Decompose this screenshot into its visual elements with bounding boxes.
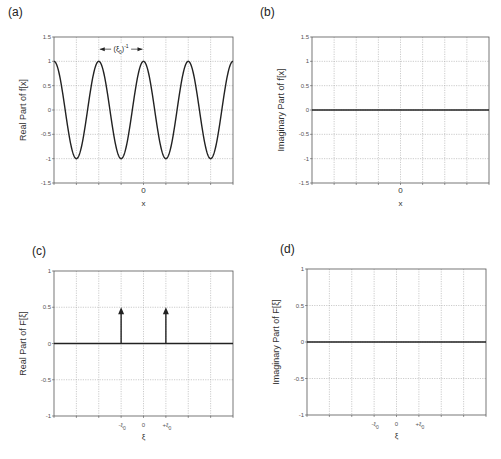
- period-annotation: (ξ0)-1: [114, 43, 129, 55]
- y-tick-label: -1: [304, 156, 310, 162]
- x-tick-label: 0: [142, 422, 146, 428]
- y-tick-label: -0.5: [41, 377, 52, 383]
- y-tick-label: -0.5: [41, 131, 52, 137]
- y-tick-label: -0.5: [299, 131, 310, 137]
- y-tick-label: 0.5: [296, 303, 305, 309]
- x-tick-label: 0: [395, 421, 399, 427]
- panel-label: (a): [8, 5, 23, 19]
- y-tick-label: 1.5: [301, 34, 310, 40]
- y-tick-label: 0: [301, 339, 305, 345]
- panel-b: (b)1.510.50-0.5-1-1.50xImaginary Part of…: [260, 5, 489, 208]
- panel-label: (b): [260, 5, 275, 19]
- y-tick-label: 1.5: [43, 34, 52, 40]
- y-tick-label: -1: [46, 156, 52, 162]
- y-tick-label: -1.5: [41, 180, 52, 186]
- panel-d: (d)10.50-0.5-1-ξ00+ξ0ξImaginary Part of …: [271, 242, 486, 440]
- figure: (a)1.510.50-0.5-1-1.50xReal Part of f[x]…: [0, 0, 501, 459]
- y-tick-label: -1: [299, 412, 305, 418]
- y-axis-label: Imaginary Part of f[x]: [276, 68, 286, 151]
- panel-c: (c)10.50-0.5-1-ξ00+ξ0ξReal Part of F[ξ]: [18, 244, 233, 441]
- y-tick-label: -1: [46, 413, 52, 419]
- y-axis-label: Real Part of F[ξ]: [18, 311, 28, 376]
- y-tick-label: 0.5: [43, 83, 52, 89]
- panel-label: (c): [32, 244, 46, 258]
- y-axis-label: Imaginary Part of F[ξ]: [271, 299, 281, 385]
- panel-a: (a)1.510.50-0.5-1-1.50xReal Part of f[x]…: [8, 5, 233, 208]
- x-axis-label: ξ: [395, 431, 399, 440]
- y-tick-label: 0.5: [301, 83, 310, 89]
- x-tick-label: 0: [398, 186, 403, 195]
- y-tick-label: 0.5: [43, 304, 52, 310]
- x-tick-label: -ξ0: [371, 421, 379, 430]
- y-tick-label: 1: [306, 58, 310, 64]
- y-tick-label: 1: [48, 268, 52, 274]
- y-tick-label: 0: [48, 341, 52, 347]
- impulse-arrowhead: [118, 307, 124, 314]
- x-axis-label: x: [399, 199, 403, 208]
- x-tick-label: -ξ0: [118, 422, 126, 431]
- x-tick-label: 0: [141, 186, 146, 195]
- y-tick-label: 1: [301, 266, 305, 272]
- x-tick-label: +ξ0: [162, 422, 171, 431]
- impulse-arrowhead: [163, 307, 169, 314]
- y-tick-label: -0.5: [294, 376, 305, 382]
- y-tick-label: 0: [48, 107, 52, 113]
- panel-label: (d): [280, 242, 295, 256]
- y-tick-label: -1.5: [299, 180, 310, 186]
- y-axis-label: Real Part of f[x]: [18, 79, 28, 141]
- x-axis-label: x: [142, 199, 146, 208]
- x-tick-label: +ξ0: [415, 421, 424, 430]
- x-axis-label: ξ: [142, 432, 146, 441]
- y-tick-label: 1: [48, 58, 52, 64]
- y-tick-label: 0: [306, 107, 310, 113]
